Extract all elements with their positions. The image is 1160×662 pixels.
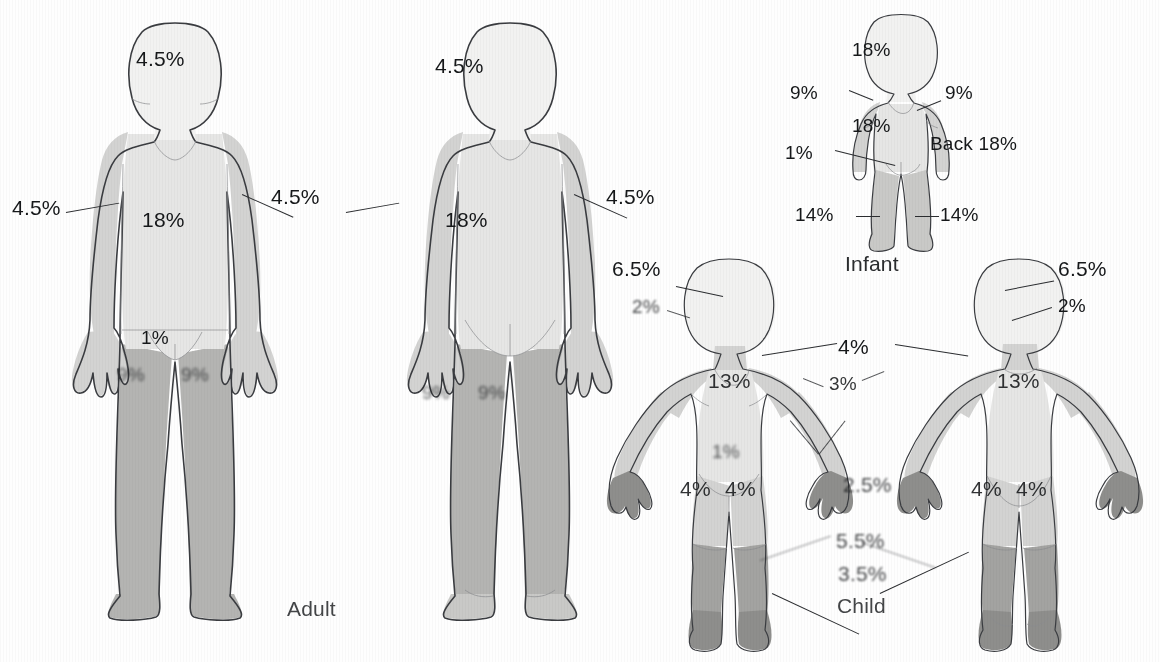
label-child-front-right-thigh: 4% <box>725 478 756 499</box>
adult-front-figure <box>10 14 340 624</box>
label-infant-left-arm: 9% <box>790 83 818 102</box>
label-infant-genitalia: 1% <box>785 143 813 162</box>
label-child-back-trunk: 13% <box>997 370 1040 391</box>
label-adult-back-right-arm: 4.5% <box>606 186 655 207</box>
label-child-front-upper-arm: 4% <box>838 336 869 357</box>
label-adult-front-genitalia: 1% <box>141 328 169 347</box>
label-adult-front-head: 4.5% <box>136 48 185 69</box>
label-infant-trunk: 18% <box>852 116 891 135</box>
label-child-back-head: 6.5% <box>1058 258 1107 279</box>
leader-child-back-forearm <box>862 371 885 381</box>
label-child-front-forearm: 3% <box>829 374 857 393</box>
label-child-back-right-thigh: 4% <box>1016 478 1047 499</box>
label-infant-right-arm: 9% <box>945 83 973 102</box>
label-infant-back: Back 18% <box>930 134 1017 153</box>
caption-adult: Adult <box>287 598 336 619</box>
caption-infant: Infant <box>845 253 899 274</box>
label-infant-head: 18% <box>852 40 891 59</box>
label-infant-left-leg: 14% <box>795 205 834 224</box>
label-adult-front-left-arm: 4.5% <box>12 197 61 218</box>
label-child-front-left-thigh: 4% <box>680 478 711 499</box>
label-adult-back-right-leg: 9% <box>478 383 506 402</box>
label-adult-back-left-leg: 9% <box>422 383 450 402</box>
label-adult-front-right-arm: 4.5% <box>271 186 320 207</box>
label-child-front-head: 6.5% <box>612 258 661 279</box>
leader-infant-right-leg <box>915 216 939 217</box>
label-adult-back-head: 4.5% <box>435 55 484 76</box>
label-child-hand: 2.5% <box>843 474 892 495</box>
label-infant-right-leg: 14% <box>940 205 979 224</box>
label-child-front-genitalia: 1% <box>712 442 740 461</box>
label-adult-front-right-leg: 9% <box>181 365 209 384</box>
label-child-back-neck: 2% <box>1058 296 1086 315</box>
label-child-front-neck: 2% <box>632 297 660 316</box>
label-adult-front-trunk: 18% <box>142 209 185 230</box>
label-child-foot: 3.5% <box>838 563 887 584</box>
leader-infant-left-leg <box>856 216 880 217</box>
label-child-lower-leg: 5.5% <box>836 530 885 551</box>
label-child-front-trunk: 13% <box>708 370 751 391</box>
label-child-back-left-thigh: 4% <box>971 478 1002 499</box>
label-adult-front-left-leg: 9% <box>117 365 145 384</box>
rule-of-nines-diagram: 4.5% 4.5% 4.5% 18% 1% 9% 9% Adult 4.5% 1… <box>0 0 1160 662</box>
caption-child: Child <box>837 595 886 616</box>
label-adult-back-trunk: 18% <box>445 209 488 230</box>
